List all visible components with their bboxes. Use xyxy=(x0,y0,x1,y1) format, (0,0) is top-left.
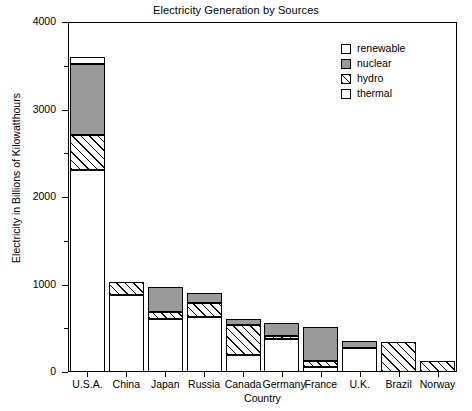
x-tick-label: France xyxy=(301,378,340,391)
bar-segment-thermal xyxy=(109,295,144,372)
x-tick-label: Brazil xyxy=(379,378,418,391)
legend-item-nuclear: nuclear xyxy=(341,57,405,71)
legend-item-thermal: thermal xyxy=(341,87,405,101)
x-tick-mark xyxy=(87,372,88,377)
x-tick-label: U.S.A. xyxy=(68,378,107,391)
chart-title: Electricity Generation by Sources xyxy=(0,4,472,16)
bar-russia xyxy=(187,22,222,372)
x-tick-label: U.K. xyxy=(340,378,379,391)
x-tick-label: China xyxy=(107,378,146,391)
bar-france xyxy=(303,22,338,372)
x-tick-mark xyxy=(360,372,361,377)
legend-item-hydro: hydro xyxy=(341,72,405,86)
legend-swatch-nuclear-icon xyxy=(341,59,351,69)
legend-swatch-renewable-icon xyxy=(341,44,351,54)
y-tick-mark xyxy=(62,372,68,373)
y-tick-label: 4000 xyxy=(0,15,56,28)
x-tick-mark xyxy=(399,372,400,377)
bar-segment-hydro xyxy=(420,361,455,372)
legend-swatch-thermal-icon xyxy=(341,89,351,99)
legend-label: nuclear xyxy=(357,57,391,71)
bar-segment-thermal xyxy=(148,319,183,372)
x-tick-mark xyxy=(321,372,322,377)
bar-segment-nuclear xyxy=(303,327,338,361)
x-tick-mark xyxy=(165,372,166,377)
bar-segment-nuclear xyxy=(187,293,222,303)
bar-segment-hydro xyxy=(264,336,299,339)
bar-segment-hydro xyxy=(381,342,416,372)
bar-germany xyxy=(264,22,299,372)
y-tick-label: 0 xyxy=(0,365,56,378)
bar-segment-thermal xyxy=(226,355,261,373)
y-tick-label: 1000 xyxy=(0,278,56,291)
bar-segment-renewable xyxy=(70,57,105,64)
x-tick-mark xyxy=(126,372,127,377)
bar-segment-hydro xyxy=(226,325,261,355)
bar-japan xyxy=(148,22,183,372)
bar-segment-thermal xyxy=(70,170,105,372)
bar-canada xyxy=(226,22,261,372)
y-tick-label: 3000 xyxy=(0,103,56,116)
x-tick-label: Japan xyxy=(146,378,185,391)
x-tick-mark xyxy=(282,372,283,377)
bar-segment-nuclear xyxy=(70,64,105,135)
legend-label: thermal xyxy=(357,87,392,101)
x-axis-label: Country xyxy=(68,392,457,404)
x-tick-label: Canada xyxy=(224,378,263,391)
bar-china xyxy=(109,22,144,372)
bar-segment-hydro xyxy=(303,361,338,367)
y-tick-label: 2000 xyxy=(0,190,56,203)
bar-usa xyxy=(70,22,105,372)
chart-container: Electricity Generation by Sources Electr… xyxy=(0,0,472,411)
legend-swatch-hydro-icon xyxy=(341,74,351,84)
bar-segment-thermal xyxy=(187,317,222,372)
bar-norway xyxy=(420,22,455,372)
x-tick-mark xyxy=(204,372,205,377)
legend-item-renewable: renewable xyxy=(341,42,405,56)
bar-segment-thermal xyxy=(342,348,377,372)
x-tick-mark xyxy=(243,372,244,377)
legend-label: hydro xyxy=(357,72,383,86)
bar-segment-nuclear xyxy=(264,323,299,336)
x-tick-mark xyxy=(438,372,439,377)
x-tick-label: Russia xyxy=(185,378,224,391)
x-tick-label: Norway xyxy=(418,378,457,391)
bar-segment-hydro xyxy=(109,282,144,295)
bar-segment-nuclear xyxy=(342,341,377,349)
bar-segment-hydro xyxy=(70,135,105,170)
legend-label: renewable xyxy=(357,42,405,56)
chart-legend: renewablenuclearhydrothermal xyxy=(341,42,405,102)
bar-segment-nuclear xyxy=(226,319,261,325)
x-tick-label: Germany xyxy=(263,378,302,391)
bar-segment-hydro xyxy=(187,303,222,317)
bar-segment-thermal xyxy=(264,339,299,372)
bar-segment-hydro xyxy=(148,312,183,319)
bar-segment-nuclear xyxy=(148,287,183,312)
y-axis-label: Electricity in Billions of Kilowatthours xyxy=(10,0,22,358)
